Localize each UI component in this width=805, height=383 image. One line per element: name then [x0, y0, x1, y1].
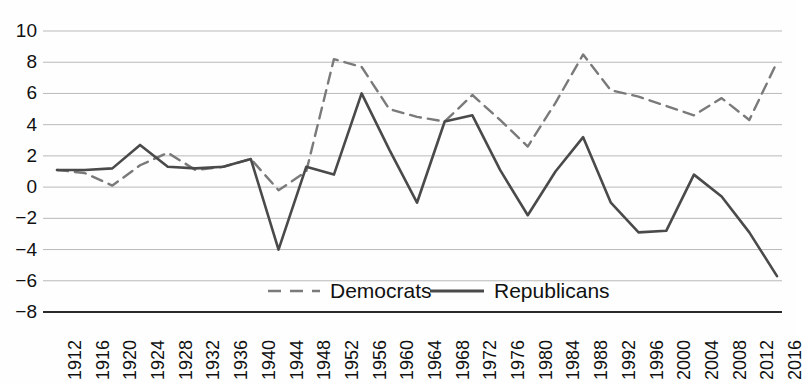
x-axis-tick-label: 2008: [731, 340, 749, 380]
x-axis-tick-label: 1912: [66, 340, 84, 380]
legend-label-democrats: Democrats: [330, 280, 432, 301]
x-axis-tick-label: 1948: [315, 340, 333, 380]
x-axis-tick-label: 2012: [758, 340, 776, 380]
x-axis-tick-label: 1988: [592, 340, 610, 380]
x-axis-tick-label: 1952: [343, 340, 361, 380]
x-axis-tick-label: 2016: [786, 340, 804, 380]
x-axis-tick-label: 1968: [454, 340, 472, 380]
y-axis-tick-label: −4: [0, 240, 37, 259]
x-axis-tick-label: 1992: [620, 340, 638, 380]
x-axis-tick-label: 1944: [288, 340, 306, 380]
x-axis-tick-label: 1964: [426, 340, 444, 380]
y-axis-tick-label: 4: [0, 115, 37, 134]
x-axis-tick-label: 1996: [648, 340, 666, 380]
x-axis-tick-label: 2000: [675, 340, 693, 380]
x-axis-tick-label: 1976: [509, 340, 527, 380]
y-axis-tick-label: 8: [0, 52, 37, 71]
y-axis-tick-label: −8: [0, 302, 37, 321]
y-axis-tick-label: 6: [0, 83, 37, 102]
y-axis-tick-label: 2: [0, 146, 37, 165]
x-axis-tick-label: 1940: [260, 340, 278, 380]
x-axis-tick-label: 2004: [703, 340, 721, 380]
x-axis-tick-label: 1920: [121, 340, 139, 380]
x-axis-tick-label: 1960: [398, 340, 416, 380]
x-axis-tick-label: 1972: [481, 340, 499, 380]
x-axis-tick-label: 1980: [537, 340, 555, 380]
y-axis-tick-label: −6: [0, 271, 37, 290]
y-axis-tick-label: −2: [0, 208, 37, 227]
legend-label-republicans: Republicans: [494, 280, 610, 301]
x-axis-tick-label: 1956: [371, 340, 389, 380]
x-axis-tick-label: 1928: [177, 340, 195, 380]
x-axis-tick-label: 1932: [204, 340, 222, 380]
x-axis-tick-label: 1924: [149, 340, 167, 380]
series-line-democrats: [57, 54, 777, 190]
x-axis-tick-label: 1936: [232, 340, 250, 380]
y-axis-tick-label: 0: [0, 177, 37, 196]
x-axis-tick-label: 1916: [94, 340, 112, 380]
y-axis-tick-label: 10: [0, 21, 37, 40]
x-axis-tick-label: 1984: [564, 340, 582, 380]
series-line-republicans: [57, 93, 777, 276]
